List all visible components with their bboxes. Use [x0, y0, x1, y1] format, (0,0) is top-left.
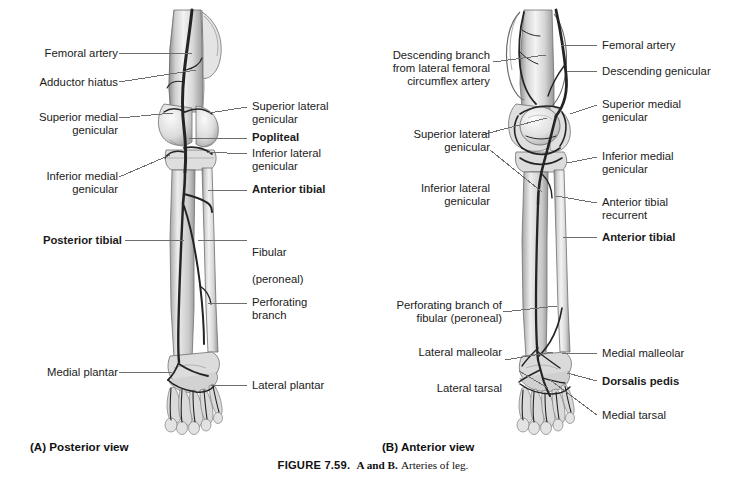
label-a-perforating-branch: Perforating branch — [252, 296, 372, 322]
label-a-medial-plantar: Medial plantar — [10, 366, 118, 379]
label-b-femoral-artery: Femoral artery — [602, 39, 738, 52]
figure-number: FIGURE 7.59. — [278, 459, 351, 471]
label-b-medial-malleolar: Medial malleolar — [602, 347, 732, 360]
label-b-dorsalis-pedis: Dorsalis pedis — [602, 375, 732, 388]
panel-a-caption: (A) Posterior view — [30, 440, 129, 453]
label-b-descending-genicular: Descending genicular — [602, 65, 742, 78]
label-a-lateral-plantar: Lateral plantar — [252, 379, 372, 392]
label-a-inferior-medial-genicular: Inferior medial genicular — [10, 170, 118, 196]
figure-caption: FIGURE 7.59. A and B. Arteries of leg. — [0, 459, 746, 471]
panel-b-caption: (B) Anterior view — [382, 440, 474, 453]
label-a-superior-medial-genicular: Superior medial genicular — [10, 111, 118, 137]
label-b-perforating-branch-fibular: Perforating branch of fibular (peroneal) — [362, 299, 502, 325]
label-a-anterior-tibial: Anterior tibial — [252, 183, 372, 196]
label-a-adductor-hiatus: Adductor hiatus — [10, 76, 118, 89]
label-b-superior-lateral-genicular: Superior lateral genicular — [370, 128, 490, 154]
label-b-descending-branch-lateral-femoral-circumflex: Descending branch from lateral femoral c… — [370, 49, 490, 89]
label-a-inferior-lateral-genicular: Inferior lateral genicular — [252, 147, 372, 173]
label-b-lateral-malleolar: Lateral malleolar — [370, 346, 502, 359]
figure-ab: A and B. — [356, 459, 397, 471]
illustration-panel-a — [140, 8, 270, 438]
label-a-popliteal: Popliteal — [252, 131, 372, 144]
label-a-femoral-artery: Femoral artery — [10, 47, 118, 60]
label-a-fibular-group: Fibular (peroneal) — [252, 233, 372, 299]
label-b-superior-medial-genicular: Superior medial genicular — [602, 98, 732, 124]
illustration-panel-b — [490, 8, 620, 438]
label-a-fibular-peroneal: (peroneal) — [252, 273, 372, 286]
label-b-lateral-tarsal: Lateral tarsal — [370, 382, 502, 395]
label-b-anterior-tibial-recurrent: Anterior tibial recurrent — [602, 196, 732, 222]
label-b-inferior-lateral-genicular: Inferior lateral genicular — [370, 182, 490, 208]
label-b-inferior-medial-genicular: Inferior medial genicular — [602, 150, 732, 176]
label-a-superior-lateral-genicular: Superior lateral genicular — [252, 100, 372, 126]
label-b-medial-tarsal: Medial tarsal — [602, 409, 732, 422]
label-a-fibular: Fibular — [252, 246, 372, 259]
label-b-anterior-tibial: Anterior tibial — [602, 231, 732, 244]
figure-caption-text: Arteries of leg. — [401, 459, 468, 471]
figure-arteries-of-leg: Femoral artery Adductor hiatus Superior … — [0, 0, 746, 485]
label-a-posterior-tibial: Posterior tibial — [10, 234, 122, 247]
